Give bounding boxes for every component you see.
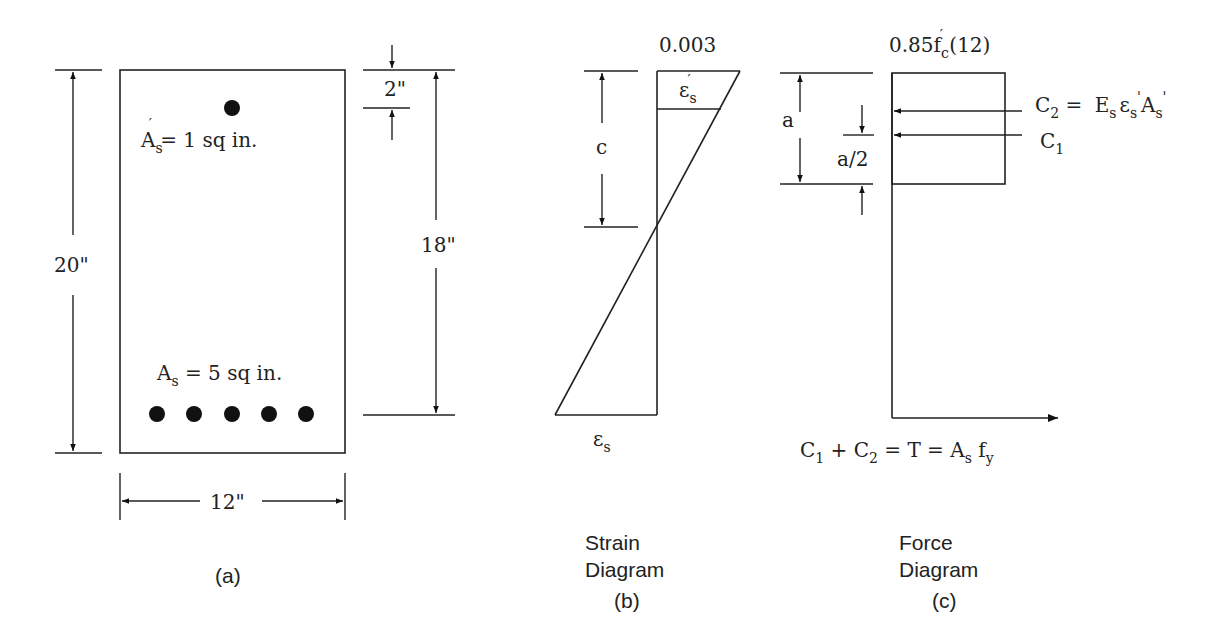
panel-b-strain-diagram: 0.003 εs′ εs c Strain Diagram (b) (555, 33, 740, 612)
tension-rebar (224, 406, 240, 422)
cover-dimension: 2" (363, 45, 455, 140)
compression-steel-label: As′ = 1 sq in. (140, 116, 257, 156)
width-dimension: 12" (120, 473, 345, 520)
c1-label: C1 (1040, 129, 1064, 157)
equivalent-stress-block (892, 73, 1005, 184)
force-diagram-title-2: Diagram (899, 558, 978, 581)
compression-steel-strain-label: εs′ (679, 72, 697, 106)
top-strain-label: 0.003 (659, 33, 716, 57)
tension-steel-strain-label: εs (593, 427, 611, 455)
force-diagram-title: Force (899, 531, 953, 554)
half-depth-label: a/2 (837, 147, 868, 171)
stress-block-label: 0.85fc′ (12) (889, 27, 990, 61)
height-label: 20" (54, 253, 89, 277)
effective-depth-dimension: 18" (363, 72, 456, 415)
tension-steel-label: As = 5 sq in. (156, 361, 282, 389)
panel-b-caption: (b) (614, 589, 640, 612)
strain-diagram-title: Strain (585, 531, 640, 554)
panel-c-caption: (c) (932, 589, 957, 612)
panel-c-force-diagram: 0.85fc′ (12) a a/2 C2 = Esεs'As' (780, 27, 1166, 612)
half-depth-dimension: a/2 (837, 105, 874, 215)
reinforced-concrete-beam-figure: As′ = 1 sq in. As = 5 sq in. 20" 12" (0, 0, 1222, 632)
neutral-axis-dimension: c (584, 71, 638, 227)
width-label: 12" (210, 490, 245, 514)
compression-rebar (224, 100, 240, 116)
tension-rebar (186, 406, 202, 422)
neutral-axis-label: c (596, 135, 607, 159)
tension-rebar (149, 406, 165, 422)
cover-label: 2" (384, 77, 406, 101)
stress-block-depth-label: a (782, 108, 794, 132)
equilibrium-equation: C1 + C2 = T = As fy (800, 438, 994, 466)
effective-depth-label: 18" (421, 233, 456, 257)
height-dimension: 20" (54, 70, 102, 453)
tension-rebar (261, 406, 277, 422)
c2-label: C2 = Esεs'As' (1035, 89, 1166, 121)
strain-distribution-line (555, 71, 740, 415)
tension-rebar (298, 406, 314, 422)
panel-a-cross-section: As′ = 1 sq in. As = 5 sq in. 20" 12" (54, 45, 456, 587)
strain-diagram-title-2: Diagram (585, 558, 664, 581)
tension-rebar-group (149, 406, 314, 422)
panel-a-caption: (a) (215, 564, 241, 587)
